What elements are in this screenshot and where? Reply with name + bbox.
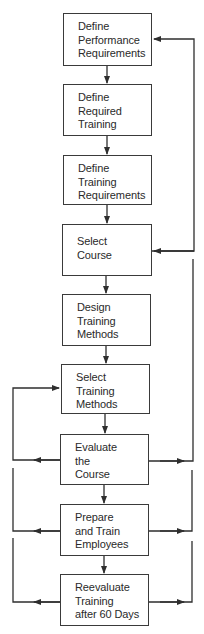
step-label-line: Required bbox=[78, 105, 151, 119]
step-label-line: Evaluate bbox=[75, 441, 148, 455]
feedback-right-select-course-to-define-performance bbox=[152, 39, 194, 251]
step-label-line: Prepare bbox=[75, 511, 148, 525]
step-label-line: Employees bbox=[75, 538, 148, 552]
feedback-left-evaluate-to-select-training bbox=[13, 388, 60, 460]
feedback-left-reevaluate-up bbox=[13, 538, 60, 602]
step-label-line: Training bbox=[76, 385, 149, 399]
step-define-performance-requirements: Define Performance Requirements bbox=[63, 13, 152, 66]
step-label-line: after 60 Days bbox=[75, 608, 148, 622]
step-label-line: Reevaluate bbox=[75, 581, 148, 595]
step-label-line: Methods bbox=[77, 328, 150, 342]
step-label-line: Requirements bbox=[78, 189, 151, 203]
step-label-line: Define bbox=[78, 162, 151, 176]
step-label-line: Training bbox=[75, 595, 148, 609]
step-label-line: Course bbox=[75, 468, 148, 482]
step-define-required-training: Define Required Training bbox=[63, 84, 152, 136]
step-select-training-methods: Select Training Methods bbox=[61, 364, 150, 414]
feedback-right-evaluate-up bbox=[149, 259, 193, 461]
step-label-line: Performance bbox=[78, 34, 151, 48]
step-label-line: Define bbox=[78, 20, 151, 34]
step-label-line: Methods bbox=[76, 398, 149, 412]
step-label-line: Select bbox=[76, 371, 149, 385]
step-label-line: Define bbox=[78, 91, 151, 105]
step-label-line: Select bbox=[77, 235, 151, 249]
step-design-training-methods: Design Training Methods bbox=[62, 294, 151, 346]
step-label-line: Training bbox=[78, 118, 151, 132]
step-label-line: Training bbox=[78, 176, 151, 190]
step-evaluate-the-course: Evaluate the Course bbox=[60, 434, 149, 485]
step-prepare-and-train-employees: Prepare and Train Employees bbox=[60, 504, 149, 556]
step-label-line: the bbox=[75, 455, 148, 469]
feedback-right-reevaluate-up bbox=[149, 541, 192, 602]
step-label-line: Design bbox=[77, 301, 150, 315]
step-label-line: Requirements bbox=[78, 47, 151, 61]
feedback-left-prepare-up bbox=[13, 468, 60, 531]
step-define-training-requirements: Define Training Requirements bbox=[63, 155, 152, 205]
step-reevaluate-training: Reevaluate Training after 60 Days bbox=[60, 574, 149, 626]
step-label-line: and Train bbox=[75, 525, 148, 539]
feedback-right-prepare-up bbox=[149, 470, 192, 531]
training-flowchart: Define Performance Requirements Define R… bbox=[0, 0, 204, 634]
step-select-course: Select Course bbox=[62, 224, 152, 276]
step-label-line: Course bbox=[77, 249, 151, 263]
step-label-line: Training bbox=[77, 315, 150, 329]
